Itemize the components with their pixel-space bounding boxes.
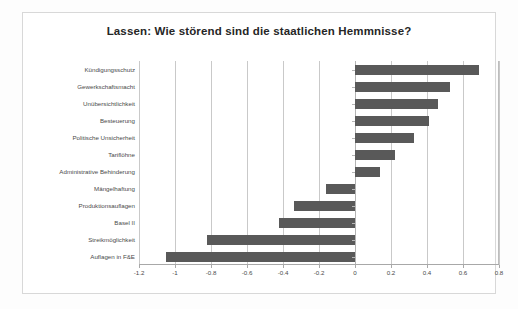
y-axis-tick — [352, 206, 355, 207]
bar — [355, 150, 395, 160]
y-axis-tick — [352, 223, 355, 224]
bar-row — [139, 146, 499, 163]
x-axis-tick — [175, 265, 176, 268]
gridline-0p8 — [499, 61, 500, 265]
y-axis-label: Politische Unsicherheit — [49, 134, 135, 142]
x-axis-tick-label: -1 — [172, 269, 178, 276]
x-axis-tick — [211, 265, 212, 268]
y-axis-label: Streikmöglichkeit — [49, 236, 135, 244]
y-axis-tick — [352, 172, 355, 173]
chart-title: Lassen: Wie störend sind die staatlichen… — [23, 25, 495, 37]
bar-row — [139, 197, 499, 214]
x-axis-tick-labels: -1.2-1-0.8-0.6-0.4-0.200.20.40.60.8 — [139, 269, 499, 283]
y-axis-label: Gewerkschaftsmacht — [49, 83, 135, 91]
x-axis-tick-label: -0.6 — [242, 269, 253, 276]
x-axis-tick-label: 0.6 — [459, 269, 468, 276]
bar-rows — [139, 61, 499, 265]
bar — [355, 167, 380, 177]
y-axis-tick — [352, 87, 355, 88]
bar-row — [139, 231, 499, 248]
y-axis-tick — [352, 138, 355, 139]
x-axis-tick — [391, 265, 392, 268]
bar — [279, 218, 355, 228]
x-axis-tick-label: -0.2 — [314, 269, 325, 276]
bar — [355, 99, 438, 109]
x-axis-tick — [139, 265, 140, 268]
bar-row — [139, 61, 499, 78]
y-axis-tick — [352, 121, 355, 122]
x-axis-tick — [283, 265, 284, 268]
y-axis-label: Auflagen in F&E — [49, 253, 135, 261]
y-axis-label: Tariflöhne — [49, 151, 135, 159]
y-axis-category-labels: KündigungsschutzGewerkschaftsmachtUnüber… — [49, 61, 135, 265]
x-axis-tick — [355, 265, 356, 268]
x-axis-tick-label: -1.2 — [134, 269, 145, 276]
y-axis-label: Produktionsauflagen — [49, 202, 135, 210]
bar-row — [139, 248, 499, 265]
x-axis-tick — [247, 265, 248, 268]
y-axis-tick — [352, 257, 355, 258]
y-axis-tick — [352, 104, 355, 105]
y-axis-label: Basel II — [49, 219, 135, 227]
bar-row — [139, 78, 499, 95]
bar-row — [139, 180, 499, 197]
x-axis-tick-label: 0.4 — [423, 269, 432, 276]
bar-row — [139, 95, 499, 112]
bar — [355, 133, 414, 143]
y-axis-label: Besteuerung — [49, 117, 135, 125]
y-axis-tick — [352, 155, 355, 156]
bar — [166, 252, 355, 262]
chart-page: Lassen: Wie störend sind die staatlichen… — [0, 0, 518, 309]
bar — [355, 82, 450, 92]
x-axis-tick — [319, 265, 320, 268]
y-axis-label: Administrative Behinderung — [49, 168, 135, 176]
bar-row — [139, 214, 499, 231]
x-axis-tick — [427, 265, 428, 268]
y-axis-tick — [352, 240, 355, 241]
x-axis-tick-label: -0.4 — [278, 269, 289, 276]
y-axis-label: Mängelhaftung — [49, 185, 135, 193]
bar — [326, 184, 355, 194]
bar-row — [139, 129, 499, 146]
bar — [294, 201, 355, 211]
y-axis-label: Unübersichtlichkeit — [49, 100, 135, 108]
bar-row — [139, 112, 499, 129]
plot-area — [139, 61, 499, 265]
x-axis-tick — [463, 265, 464, 268]
bar-row — [139, 163, 499, 180]
y-axis-tick — [352, 70, 355, 71]
x-axis-tick-label: 0 — [353, 269, 356, 276]
chart-frame: Lassen: Wie störend sind die staatlichen… — [22, 12, 496, 294]
bar — [355, 65, 479, 75]
bar — [355, 116, 429, 126]
x-axis-tick-label: -0.8 — [206, 269, 217, 276]
x-axis-tick-label: 0.8 — [495, 269, 504, 276]
bar — [207, 235, 355, 245]
y-axis-tick — [352, 189, 355, 190]
x-axis-tick-label: 0.2 — [387, 269, 396, 276]
x-axis-tick — [499, 265, 500, 268]
y-axis-label: Kündigungsschutz — [49, 66, 135, 74]
